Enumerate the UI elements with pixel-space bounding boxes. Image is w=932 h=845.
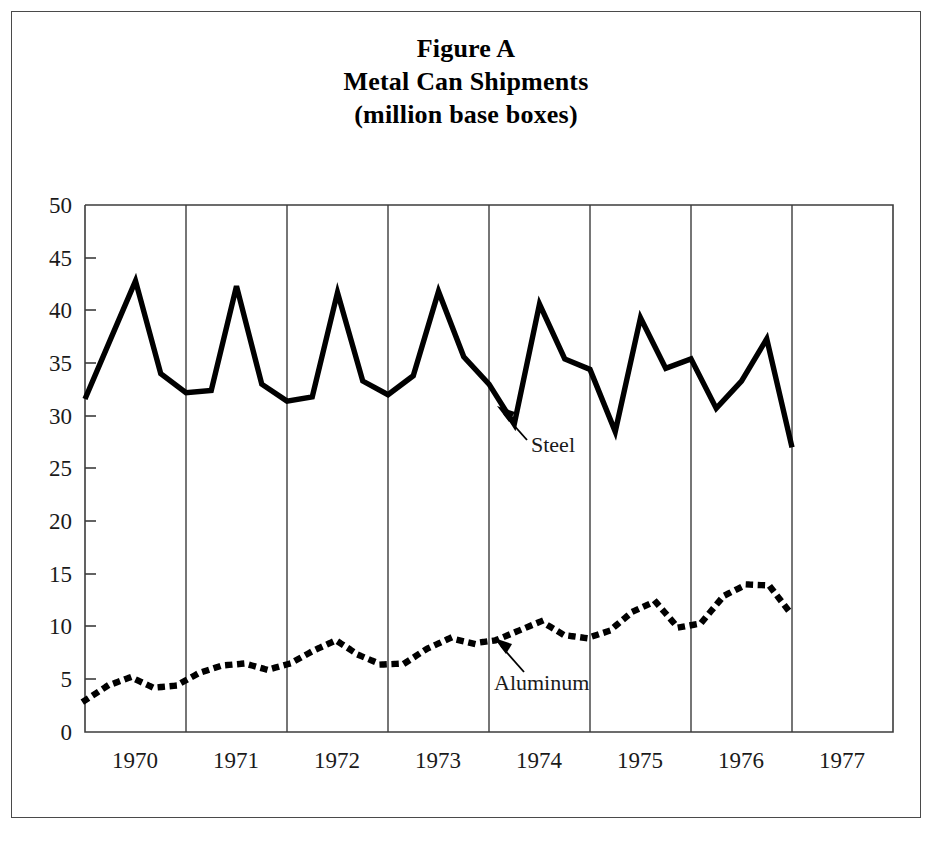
series-group	[85, 281, 792, 700]
ytick-label-30: 30	[49, 404, 72, 429]
year-gridlines	[186, 205, 792, 732]
aluminum-series-line	[85, 584, 792, 700]
ytick-label-25: 25	[49, 456, 72, 481]
y-axis-ticks	[85, 258, 96, 679]
ytick-label-35: 35	[49, 351, 72, 376]
steel-series-line	[85, 281, 792, 448]
ytick-label-0: 0	[61, 720, 73, 745]
ytick-label-45: 45	[49, 246, 72, 271]
x-axis-labels: 1970 1971 1972 1973 1974 1975 1976 1977	[112, 748, 865, 773]
aluminum-annotation: Aluminum	[494, 638, 589, 695]
ytick-label-40: 40	[49, 298, 72, 323]
xtick-label-1971: 1971	[213, 748, 259, 773]
aluminum-label: Aluminum	[494, 670, 589, 695]
aluminum-arrow-head-icon	[494, 638, 512, 654]
ytick-label-5: 5	[61, 667, 73, 692]
ytick-label-20: 20	[49, 509, 72, 534]
xtick-label-1973: 1973	[415, 748, 461, 773]
xtick-label-1976: 1976	[718, 748, 764, 773]
xtick-label-1975: 1975	[617, 748, 663, 773]
xtick-label-1974: 1974	[516, 748, 563, 773]
steel-label: Steel	[531, 432, 575, 457]
xtick-label-1970: 1970	[112, 748, 158, 773]
ytick-label-10: 10	[49, 614, 72, 639]
figure-container: Figure A Metal Can Shipments (million ba…	[0, 0, 932, 845]
xtick-label-1977: 1977	[819, 748, 865, 773]
y-axis-labels: 0 5 10 15 20 25 30 35 40 45 50	[49, 193, 72, 745]
ytick-label-15: 15	[49, 562, 72, 587]
steel-annotation: Steel	[497, 406, 575, 457]
ytick-label-50: 50	[49, 193, 72, 218]
chart-canvas: 0 5 10 15 20 25 30 35 40 45 50 1970 1971…	[0, 0, 932, 845]
xtick-label-1972: 1972	[314, 748, 360, 773]
